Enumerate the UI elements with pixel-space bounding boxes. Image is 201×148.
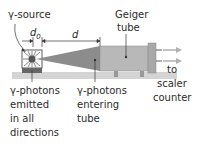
- emitted-label-line2: emitted: [10, 99, 49, 111]
- geiger-tube: [100, 43, 162, 77]
- signal-arrows: [163, 47, 182, 64]
- geiger-label-line1: Geiger: [115, 9, 148, 21]
- entering-label-line3: tube: [77, 113, 100, 125]
- to-label-line3: counter: [153, 92, 191, 104]
- photon-beam: [36, 46, 100, 71]
- entering-label-line2: entering: [77, 99, 119, 111]
- d-label: d: [72, 29, 78, 41]
- emitted-label-line1: γ-photons: [10, 85, 60, 97]
- geiger-label-line2: tube: [117, 22, 140, 34]
- to-label-line1: to: [167, 64, 177, 76]
- d0-subscript: 0: [36, 33, 40, 41]
- source-label: γ-source: [8, 9, 51, 21]
- d0-label: d0: [30, 27, 41, 43]
- to-label-line2: scaler: [157, 78, 187, 90]
- emitted-label-line4: directions: [10, 127, 59, 139]
- entering-label-line1: γ-photons: [77, 85, 127, 97]
- source-pointer: [15, 24, 24, 50]
- emitted-label-line3: in all: [10, 113, 34, 125]
- gamma-source: [22, 50, 42, 73]
